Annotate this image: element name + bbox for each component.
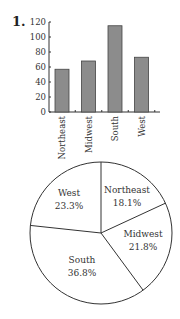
y-tick-label: 0 bbox=[41, 107, 46, 117]
pie-percent-northeast: 18.1% bbox=[113, 198, 142, 208]
y-tick-label: 60 bbox=[35, 62, 46, 72]
x-tick-label: South bbox=[110, 115, 120, 141]
y-tick-label: 40 bbox=[35, 77, 46, 87]
y-tick-label: 120 bbox=[30, 17, 46, 27]
pie-label-south: South bbox=[69, 255, 96, 265]
x-tick-label: West bbox=[137, 115, 147, 136]
bar-midwest bbox=[82, 61, 96, 112]
pie-label-midwest: Midwest bbox=[123, 229, 163, 239]
x-tick-label: Midwest bbox=[84, 115, 94, 153]
pie-percent-south: 36.8% bbox=[68, 268, 97, 278]
pie-percent-midwest: 21.8% bbox=[129, 242, 158, 252]
bar-south bbox=[108, 26, 122, 112]
bar-chart: 020406080100120NortheastMidwestSouthWest bbox=[30, 17, 160, 159]
pie-label-west: West bbox=[58, 188, 80, 198]
x-tick-label: Northeast bbox=[57, 115, 67, 159]
pie-percent-west: 23.3% bbox=[55, 201, 84, 211]
y-tick-label: 100 bbox=[30, 32, 46, 42]
figure: 020406080100120NortheastMidwestSouthWest… bbox=[0, 0, 180, 319]
pie-label-northeast: Northeast bbox=[104, 185, 150, 195]
bar-northeast bbox=[55, 69, 69, 112]
bar-west bbox=[135, 57, 149, 112]
pie-chart: Northeast18.1%Midwest21.8%South36.8%West… bbox=[30, 162, 172, 304]
y-tick-label: 80 bbox=[35, 47, 46, 57]
y-tick-label: 20 bbox=[35, 92, 46, 102]
